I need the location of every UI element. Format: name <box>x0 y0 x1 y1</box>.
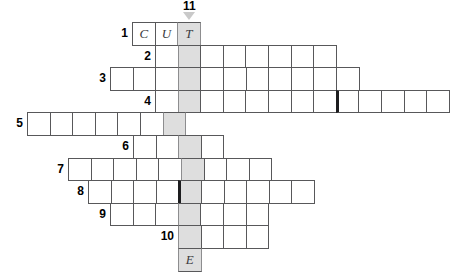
crossword-cell[interactable] <box>140 112 164 136</box>
crossword-cell-highlighted[interactable] <box>178 203 202 227</box>
row-number-5: 5 <box>0 112 23 135</box>
crossword-cell[interactable] <box>111 180 135 204</box>
crossword-cell-highlighted[interactable] <box>163 112 187 136</box>
row-number-7: 7 <box>38 158 64 181</box>
crossword-cell-highlighted[interactable] <box>178 45 202 69</box>
crossword-cell[interactable] <box>155 67 179 91</box>
crossword-cell[interactable] <box>155 45 179 69</box>
row-number-3: 3 <box>80 67 106 90</box>
row-number-8: 8 <box>58 180 84 203</box>
crossword-cell[interactable]: C <box>132 22 156 46</box>
crossword-cell[interactable] <box>201 135 225 159</box>
crossword-cell-highlighted[interactable]: T <box>177 22 201 46</box>
crossword-cell-highlighted[interactable] <box>178 135 202 159</box>
crossword-cell[interactable] <box>381 90 405 114</box>
crossword-cell[interactable] <box>313 67 337 91</box>
crossword-cell[interactable] <box>268 45 292 69</box>
crossword-cell[interactable] <box>268 67 292 91</box>
crossword-cell[interactable] <box>156 180 180 204</box>
crossword-cell[interactable] <box>68 158 92 182</box>
crossword-cell[interactable] <box>223 203 247 227</box>
crossword-cell[interactable] <box>200 67 224 91</box>
crossword-cell[interactable] <box>404 90 428 114</box>
crossword-cell[interactable] <box>336 90 360 114</box>
crossword-cell[interactable] <box>291 67 315 91</box>
crossword-cell[interactable] <box>113 158 137 182</box>
crossword-cell[interactable] <box>72 112 96 136</box>
crossword-cell[interactable] <box>88 180 112 204</box>
crossword-cell[interactable] <box>91 158 115 182</box>
crossword-cell[interactable] <box>156 135 180 159</box>
row-number-4: 4 <box>125 90 151 113</box>
crossword-cell[interactable] <box>249 158 273 182</box>
crossword-cell[interactable] <box>133 203 157 227</box>
crossword-cell-highlighted[interactable] <box>178 90 202 114</box>
down-arrow-icon <box>183 12 195 20</box>
crossword-cell-highlighted[interactable]: E <box>178 248 202 272</box>
crossword-cell[interactable] <box>201 225 225 249</box>
crossword-cell[interactable] <box>117 112 141 136</box>
row-number-6: 6 <box>103 135 129 158</box>
crossword-cell-highlighted[interactable] <box>178 180 202 204</box>
crossword-cell[interactable] <box>246 203 270 227</box>
crossword-cell[interactable] <box>224 180 248 204</box>
crossword-cell[interactable] <box>291 90 315 114</box>
crossword-cell[interactable] <box>226 158 250 182</box>
crossword-cell[interactable] <box>110 203 134 227</box>
crossword-cell-highlighted[interactable] <box>181 158 205 182</box>
crossword-cell[interactable] <box>223 67 247 91</box>
crossword-cell[interactable] <box>291 180 315 204</box>
crossword-cell[interactable] <box>133 67 157 91</box>
crossword-cell[interactable] <box>223 45 247 69</box>
crossword-cell[interactable] <box>133 135 157 159</box>
crossword-cell[interactable] <box>133 180 157 204</box>
crossword-cell[interactable] <box>358 90 382 114</box>
crossword-cell[interactable] <box>313 45 337 69</box>
crossword-cell-highlighted[interactable] <box>178 67 202 91</box>
crossword-cell[interactable] <box>204 158 228 182</box>
crossword-cell[interactable] <box>313 90 337 114</box>
crossword-cell[interactable] <box>155 90 179 114</box>
crossword-cell[interactable] <box>155 203 179 227</box>
row-number-1: 1 <box>102 22 128 45</box>
row-number-10: 10 <box>148 225 174 248</box>
crossword-cell[interactable] <box>291 45 315 69</box>
crossword-cell[interactable] <box>50 112 74 136</box>
crossword-cell[interactable] <box>200 203 224 227</box>
crossword-cell[interactable] <box>245 90 269 114</box>
crossword-cell[interactable] <box>246 225 270 249</box>
crossword-cell[interactable] <box>27 112 51 136</box>
crossword-cell[interactable] <box>336 67 360 91</box>
column-number-11: 11 <box>168 0 211 12</box>
crossword-cell[interactable] <box>200 90 224 114</box>
crossword-cell[interactable] <box>426 90 450 114</box>
crossword-cell-highlighted[interactable] <box>178 225 202 249</box>
crossword-cell[interactable] <box>269 180 293 204</box>
crossword-cell[interactable] <box>223 225 247 249</box>
crossword-cell[interactable] <box>201 180 225 204</box>
crossword-cell[interactable] <box>246 180 270 204</box>
crossword-cell[interactable]: U <box>155 22 179 46</box>
crossword-cell[interactable] <box>200 45 224 69</box>
crossword-cell[interactable] <box>136 158 160 182</box>
crossword-cell[interactable] <box>158 158 182 182</box>
crossword-cell[interactable] <box>110 67 134 91</box>
row-number-9: 9 <box>80 203 106 226</box>
crossword-cell[interactable] <box>223 90 247 114</box>
crossword-cell[interactable] <box>245 45 269 69</box>
crossword-cell[interactable] <box>246 67 270 91</box>
row-number-2: 2 <box>125 45 151 68</box>
crossword-cell[interactable] <box>95 112 119 136</box>
crossword-cell[interactable] <box>268 90 292 114</box>
